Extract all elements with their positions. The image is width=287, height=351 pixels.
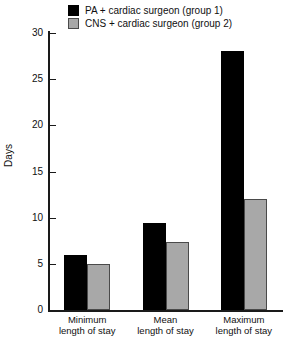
y-tick-label: 10: [32, 213, 43, 223]
x-axis-label: Maximumlength of stay: [205, 314, 283, 336]
bar: [64, 255, 87, 310]
bar: [221, 51, 244, 310]
y-tick-mark: [50, 172, 56, 173]
y-axis-title-text: Days: [3, 144, 14, 167]
y-tick-mark: [50, 79, 56, 80]
chart-legend: PA + cardiac surgeon (group 1) CNS + car…: [68, 4, 283, 30]
figure-caption: [4, 342, 287, 351]
bar: [143, 223, 166, 310]
x-axis-label-line: length of stay: [126, 325, 204, 336]
y-tick-label: 20: [32, 120, 43, 130]
y-tick-label: 30: [32, 28, 43, 38]
x-axis-label-line: Mean: [126, 314, 204, 325]
y-tick-mark: [50, 264, 56, 265]
legend-label-group-2: CNS + cardiac surgeon (group 2): [85, 18, 232, 29]
x-axis-label-line: Minimum: [48, 314, 126, 325]
y-tick-mark: [50, 310, 56, 311]
plot-area: 051015202530: [48, 33, 283, 310]
y-tick-label: 15: [32, 167, 43, 177]
y-tick-label: 25: [32, 74, 43, 84]
bar: [244, 199, 267, 310]
y-tick-mark: [50, 218, 56, 219]
y-tick-label: 0: [37, 305, 43, 315]
legend-item-group-2: CNS + cardiac surgeon (group 2): [68, 17, 283, 30]
x-axis-label-line: length of stay: [48, 325, 126, 336]
bar: [87, 264, 110, 310]
legend-item-group-1: PA + cardiac surgeon (group 1): [68, 4, 283, 17]
x-axis-label-line: length of stay: [205, 325, 283, 336]
bar: [166, 242, 189, 310]
y-tick-mark: [50, 33, 56, 34]
x-axis-line: [48, 310, 283, 312]
x-axis-label-line: Maximum: [205, 314, 283, 325]
x-axis-label: Meanlength of stay: [126, 314, 204, 336]
figure-bar-chart: PA + cardiac surgeon (group 1) CNS + car…: [0, 0, 287, 351]
y-axis-title: Days: [0, 0, 16, 310]
x-axis-label: Minimumlength of stay: [48, 314, 126, 336]
legend-label-group-1: PA + cardiac surgeon (group 1): [85, 5, 223, 16]
y-tick-label: 5: [37, 259, 43, 269]
x-axis-category-labels: Minimumlength of stayMeanlength of stayM…: [48, 314, 283, 340]
black-square-swatch-icon: [68, 5, 79, 16]
y-tick-mark: [50, 125, 56, 126]
gray-square-swatch-icon: [68, 18, 79, 29]
